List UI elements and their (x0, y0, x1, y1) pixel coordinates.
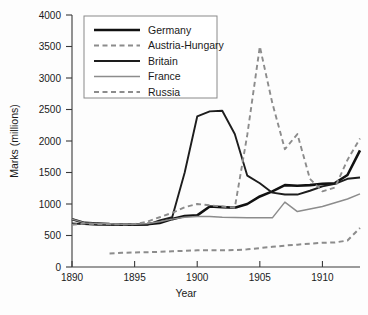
line-chart: 05001000150020002500300035004000 1890189… (0, 0, 368, 315)
y-axis-title: Marks (millions) (8, 104, 20, 178)
x-tick-label: 1905 (249, 272, 272, 283)
legend-label-austria-hungary[interactable]: Austria-Hungary (148, 39, 225, 51)
legend-label-britain[interactable]: Britain (148, 55, 178, 67)
y-axis-ticks: 05001000150020002500300035004000 (39, 10, 72, 273)
series-line-austria-hungary (110, 228, 360, 254)
x-tick-label: 1890 (61, 272, 84, 283)
x-tick-label: 1910 (311, 272, 334, 283)
y-tick-label: 1000 (39, 199, 62, 210)
y-tick-label: 2000 (39, 136, 62, 147)
y-tick-label: 3500 (39, 41, 62, 52)
x-axis-title: Year (175, 287, 197, 299)
y-tick-label: 1500 (39, 167, 62, 178)
y-tick-label: 2500 (39, 104, 62, 115)
y-tick-label: 0 (55, 262, 61, 273)
chart-container: 05001000150020002500300035004000 1890189… (0, 0, 368, 315)
x-tick-label: 1900 (186, 272, 209, 283)
legend-label-france[interactable]: France (148, 70, 181, 82)
series-line-france (72, 194, 360, 224)
x-axis-ticks: 18901895190019051910 (61, 261, 334, 283)
y-tick-label: 3000 (39, 73, 62, 84)
chart-legend: GermanyAustria-HungaryBritainFranceRussi… (84, 16, 225, 98)
x-tick-label: 1895 (123, 272, 146, 283)
y-tick-label: 4000 (39, 10, 62, 21)
legend-label-russia[interactable]: Russia (148, 86, 180, 98)
legend-label-germany[interactable]: Germany (148, 24, 192, 36)
y-tick-label: 500 (44, 230, 61, 241)
